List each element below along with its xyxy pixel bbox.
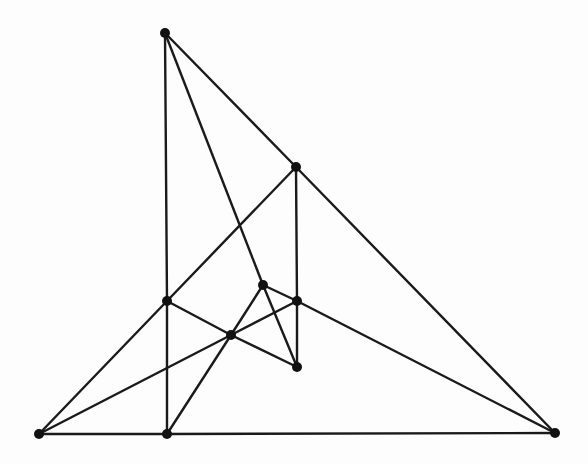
graph-drawing — [0, 0, 588, 464]
edge-A-C — [165, 33, 167, 301]
vertex-G — [292, 362, 302, 372]
vertex-I — [162, 429, 172, 439]
vertex-A — [160, 28, 170, 38]
vertex-C — [162, 296, 172, 306]
edge-B-J — [296, 167, 555, 433]
edge-B-C — [167, 167, 296, 301]
edge-group — [39, 33, 555, 434]
vertex-E — [292, 296, 302, 306]
edge-A-D — [165, 33, 263, 285]
vertex-D — [258, 280, 268, 290]
edge-B-E — [296, 167, 297, 301]
vertex-F — [226, 330, 236, 340]
edge-F-I — [167, 335, 231, 434]
edge-F-H — [39, 335, 231, 434]
vertex-B — [291, 162, 301, 172]
diagram-canvas — [0, 0, 588, 464]
edge-F-G — [231, 335, 297, 367]
edge-E-J — [297, 301, 555, 433]
vertex-J — [550, 428, 560, 438]
edge-A-B — [165, 33, 296, 167]
vertex-H — [34, 429, 44, 439]
edge-C-F — [167, 301, 231, 335]
edge-I-J — [167, 433, 555, 434]
edge-C-H — [39, 301, 167, 434]
